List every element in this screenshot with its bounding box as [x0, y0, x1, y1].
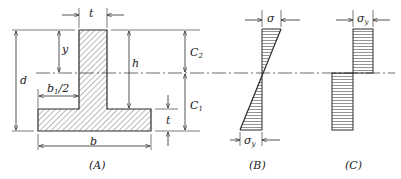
label-b1-half: b1/2 — [47, 83, 69, 96]
label-sigma: σ — [267, 13, 275, 24]
label-h: h — [132, 58, 139, 69]
linear-stress-distribution — [240, 29, 281, 130]
label-t-web: t — [89, 8, 93, 19]
label-y: y — [62, 44, 68, 55]
t-section-shape — [38, 30, 151, 131]
label-c2: C2 — [190, 47, 203, 60]
caption-b: (B) — [249, 160, 266, 171]
caption-c: (C) — [345, 160, 362, 171]
label-sigma-y-top: σy — [357, 13, 368, 26]
label-b: b — [90, 136, 97, 147]
label-d: d — [20, 75, 27, 86]
caption-a: (A) — [89, 160, 106, 171]
label-c1: C1 — [190, 100, 203, 113]
t-section-stress-diagram: t y d h b1/2 C2 C1 t b (A) σ σy (B) σy (… — [0, 0, 401, 179]
label-t-flange: t — [166, 115, 170, 126]
label-sigma-y-bottom: σy — [244, 135, 255, 148]
plastic-stress-distribution — [332, 29, 373, 130]
